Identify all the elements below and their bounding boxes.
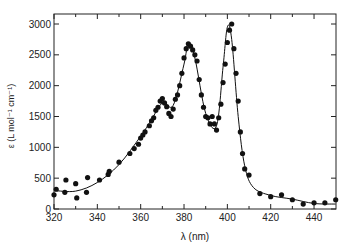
data-point: [240, 151, 245, 156]
data-point: [311, 200, 316, 205]
data-point: [290, 197, 295, 202]
data-point: [242, 166, 247, 171]
data-point: [63, 177, 68, 182]
data-point: [190, 47, 195, 52]
y-tick-label: 2000: [29, 80, 52, 91]
absorption-spectrum-chart: 3203403603804004204400500100015002000250…: [0, 0, 342, 247]
data-point: [233, 71, 238, 76]
data-point: [199, 92, 204, 97]
data-point: [181, 55, 186, 60]
data-point: [220, 80, 225, 85]
data-point: [210, 114, 215, 119]
data-point: [231, 46, 236, 51]
data-point: [212, 121, 217, 126]
data-point: [171, 107, 176, 112]
x-tick-label: 360: [132, 212, 149, 223]
data-point: [192, 52, 197, 57]
data-point: [225, 40, 230, 45]
data-point: [223, 61, 228, 66]
data-point: [216, 115, 221, 120]
y-tick-label: 2500: [29, 49, 52, 60]
data-point: [136, 142, 141, 147]
data-point: [84, 190, 89, 195]
data-point: [116, 160, 121, 165]
data-point: [164, 104, 169, 109]
data-point: [73, 181, 78, 186]
data-point: [179, 71, 184, 76]
data-point: [227, 28, 232, 33]
data-point: [54, 187, 59, 192]
data-point: [62, 190, 67, 195]
data-point: [132, 146, 137, 151]
data-point: [194, 58, 199, 63]
data-point: [107, 169, 112, 174]
data-point: [229, 21, 234, 26]
y-tick-label: 500: [34, 173, 51, 184]
y-tick-label: 1500: [29, 111, 52, 122]
y-axis-label: ε (L mol⁻¹ cm⁻¹): [6, 84, 16, 149]
data-point: [197, 77, 202, 82]
data-point: [147, 123, 152, 128]
data-point: [333, 197, 338, 202]
data-point: [127, 151, 132, 156]
data-point: [257, 191, 262, 196]
data-point: [279, 192, 284, 197]
data-point: [175, 92, 180, 97]
data-point: [322, 200, 327, 205]
data-point: [236, 98, 241, 103]
data-point: [201, 105, 206, 110]
data-point: [151, 115, 156, 120]
x-tick-label: 420: [262, 212, 279, 223]
data-point: [301, 201, 306, 206]
data-point: [74, 195, 79, 200]
plot-frame: [54, 14, 336, 209]
data-points: [51, 21, 338, 206]
y-tick-label: 3000: [29, 19, 52, 30]
data-point: [246, 172, 251, 177]
data-point: [97, 177, 102, 182]
data-point: [168, 114, 173, 119]
data-point: [218, 102, 223, 107]
fit-curve: [54, 25, 336, 204]
data-point: [238, 129, 243, 134]
data-point: [268, 194, 273, 199]
x-tick-label: 380: [176, 212, 193, 223]
data-point: [142, 129, 147, 134]
x-tick-label: 400: [219, 212, 236, 223]
y-tick-label: 1000: [29, 142, 52, 153]
data-point: [155, 105, 160, 110]
y-tick-label: 0: [45, 204, 51, 215]
data-point: [177, 83, 182, 88]
x-tick-label: 340: [89, 212, 106, 223]
data-point: [51, 192, 56, 197]
x-tick-label: 440: [306, 212, 323, 223]
x-axis-label: λ (nm): [181, 231, 209, 242]
data-point: [214, 127, 219, 132]
data-point: [85, 175, 90, 180]
